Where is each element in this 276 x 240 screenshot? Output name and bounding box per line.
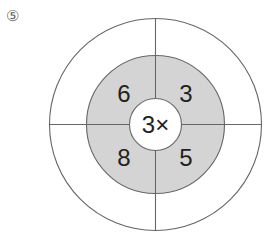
number-bottom-left: 8 — [117, 144, 130, 171]
number-bottom-right: 5 — [179, 144, 192, 171]
number-top-left: 6 — [117, 80, 130, 107]
multiplication-wheel-diagram: 3× 6 3 8 5 — [0, 0, 276, 240]
number-top-right: 3 — [179, 80, 192, 107]
center-operator: 3× — [142, 111, 169, 138]
